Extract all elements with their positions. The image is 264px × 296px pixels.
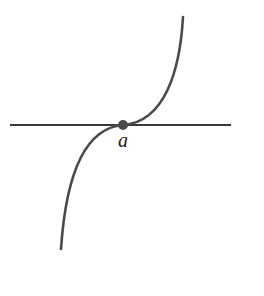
point-label-a: a <box>118 129 128 151</box>
inflection-point-diagram: a <box>0 0 264 296</box>
